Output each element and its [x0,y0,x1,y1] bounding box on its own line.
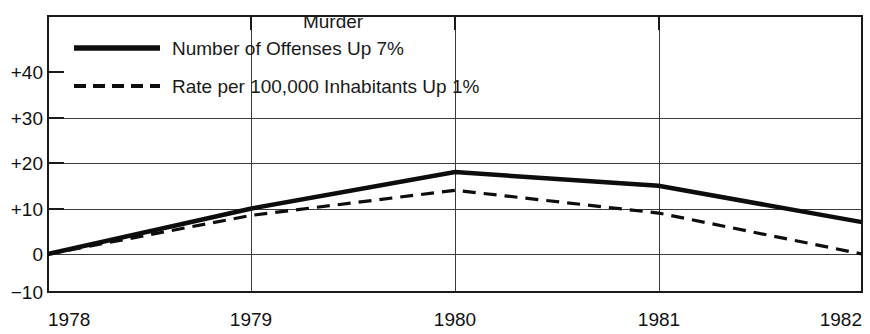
y-axis-label-30: +30 [11,108,43,129]
x-axis-label-1980: 1980 [434,309,476,330]
legend-label-offenses: Number of Offenses Up 7% [172,38,404,59]
y-axis-label-0: 0 [32,244,43,265]
x-axis-labels: 1978 1979 1980 1981 1982 [48,309,862,330]
x-axis-label-1978: 1978 [48,309,90,330]
chart-title: Murder [303,11,364,32]
y-axis-label-20: +20 [11,153,43,174]
legend-label-rate: Rate per 100,000 Inhabitants Up 1% [172,76,479,97]
murder-trend-chart: +40 +30 +20 +10 0 −10 1978 1979 1980 198… [0,0,870,334]
x-axis-label-1981: 1981 [638,309,680,330]
x-axis-label-1982: 1982 [820,309,862,330]
y-axis-labels: +40 +30 +20 +10 0 −10 [11,62,43,303]
y-axis-label-40: +40 [11,62,43,83]
y-axis-label-10: +10 [11,199,43,220]
y-axis-label-minus10: −10 [11,282,43,303]
x-axis-label-1979: 1979 [230,309,272,330]
chart-canvas: +40 +30 +20 +10 0 −10 1978 1979 1980 198… [0,0,870,334]
